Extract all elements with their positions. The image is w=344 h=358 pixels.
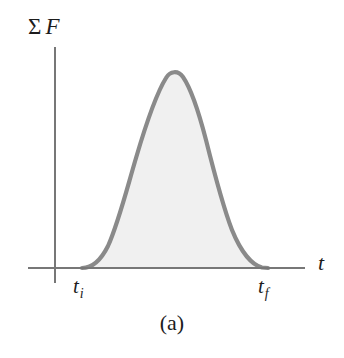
impulse-plot [0,0,344,358]
figure-caption: (a) [0,312,344,334]
tick-subscript-tf: f [265,286,269,301]
force-symbol: F [45,14,59,39]
sigma-symbol: Σ [28,14,41,39]
tick-label-initial-time: ti [73,276,83,297]
tick-label-final-time: tf [258,276,268,297]
x-axis-label: t [318,252,324,274]
tick-symbol-tf: t [258,274,264,298]
tick-symbol-ti: t [73,274,79,298]
y-axis-label: ΣF [28,15,59,38]
force-time-figure: ΣF t ti tf (a) [0,0,344,358]
tick-subscript-ti: i [80,286,84,301]
